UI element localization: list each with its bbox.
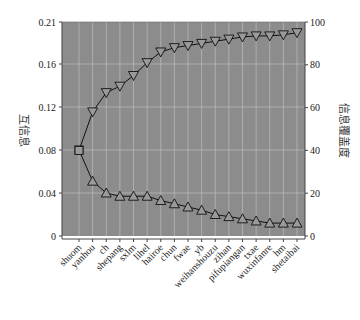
- left-axis-title: 互信息: [17, 114, 31, 147]
- plot-area: [62, 22, 305, 236]
- left-tick-label: 0.21: [39, 17, 57, 28]
- right-axis-ticks: 020406080100: [305, 17, 325, 242]
- left-axis-ticks: 00.040.080.120.160.21: [39, 17, 63, 242]
- right-tick-label: 40: [310, 145, 320, 156]
- chart: 00.040.080.120.160.21 020406080100 shuom…: [0, 0, 360, 320]
- square-marker: [75, 146, 83, 154]
- x-tick-label: shetaibai: [269, 241, 302, 274]
- left-tick-label: 0.08: [39, 145, 57, 156]
- x-tick-label: fwae: [171, 241, 193, 263]
- right-axis-title: 信息覆盖度: [337, 103, 351, 158]
- left-tick-label: 0.04: [39, 188, 57, 199]
- right-tick-label: 0: [310, 231, 315, 242]
- right-tick-label: 60: [310, 102, 320, 113]
- left-tick-label: 0.12: [39, 102, 57, 113]
- right-tick-label: 20: [310, 188, 320, 199]
- right-tick-label: 100: [310, 17, 325, 28]
- left-tick-label: 0: [51, 231, 56, 242]
- x-axis-ticks: shuomyanhouchshepangsxlmlihelhairoechunf…: [57, 239, 302, 290]
- left-tick-label: 0.16: [39, 59, 57, 70]
- right-tick-label: 80: [310, 59, 320, 70]
